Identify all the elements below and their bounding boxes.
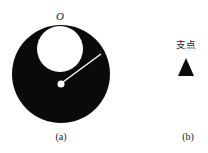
figure-a: O (a) bbox=[12, 10, 110, 143]
point-o-label: O bbox=[56, 10, 64, 22]
pivot-dot bbox=[58, 81, 65, 88]
caption-b: (b) bbox=[182, 131, 194, 143]
figure-b: 支点 (b) bbox=[176, 39, 196, 143]
fulcrum-label: 支点 bbox=[176, 39, 196, 50]
disk-hole bbox=[37, 26, 83, 72]
diagram-canvas: O (a) 支点 (b) bbox=[0, 0, 208, 153]
fulcrum-triangle-icon bbox=[178, 58, 194, 76]
caption-a: (a) bbox=[55, 131, 66, 143]
